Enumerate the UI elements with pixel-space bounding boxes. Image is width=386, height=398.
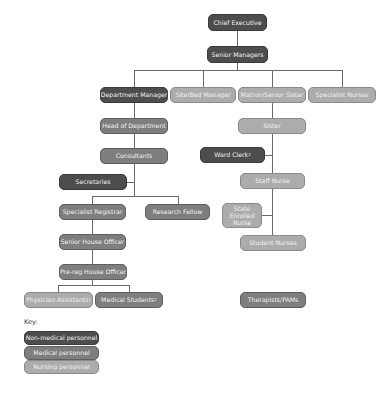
node-specialist-registrar: Specialist Registrar: [59, 204, 126, 220]
node-senior-house-officer: Senior House Officer: [59, 234, 126, 250]
connector: [92, 196, 93, 204]
node-consultants: Consultants: [100, 148, 168, 164]
node-chief-executive: Chief Executive: [208, 14, 267, 31]
medical-students-label: Medical Students: [101, 296, 154, 303]
node-sister: Sister: [238, 118, 306, 134]
node-senior-managers: Senior Managers: [207, 46, 268, 63]
connector: [237, 62, 238, 70]
connector: [134, 70, 342, 71]
connector: [237, 30, 238, 46]
ward-clerk-label: Ward Clerk: [214, 151, 248, 158]
node-department-manager: Department Manager: [100, 87, 168, 103]
connector: [58, 285, 129, 286]
connector: [342, 70, 343, 87]
node-staff-nurse: Staff Nurse: [240, 173, 305, 189]
connector: [134, 164, 135, 196]
key-item-nursing: Nursing personnel: [24, 360, 99, 374]
connector: [265, 155, 272, 156]
node-research-fellow: Research Fellow: [145, 204, 210, 220]
node-site-bed-manager: Site/Bed Manager: [170, 87, 236, 103]
key-item-non-medical: Non-medical personnel: [24, 331, 99, 345]
connector: [134, 70, 135, 87]
node-pre-reg-house-officer: Pre-reg House Officer: [59, 264, 127, 280]
connector: [58, 285, 59, 292]
node-student-nurses: Student Nurses: [240, 235, 306, 251]
node-secretaries: Secretaries: [59, 174, 127, 190]
connector: [129, 285, 130, 292]
node-ward-clerk: Ward Clerk2: [200, 147, 265, 163]
physician-assistants-label: Physician Assistants: [26, 296, 88, 303]
connector: [203, 70, 204, 87]
node-therapists-pams: Therapists/PAMs: [240, 292, 306, 308]
connector: [127, 182, 134, 183]
node-specialist-nurses: Specialist Nurses: [308, 87, 376, 103]
connector: [178, 196, 179, 204]
connector: [272, 103, 273, 173]
node-matron-senior-sister: Matron/Senior Sister: [238, 87, 306, 103]
connector: [272, 70, 273, 87]
key-label: Key:: [24, 318, 38, 326]
key-item-medical: Medical personnel: [24, 346, 99, 360]
node-medical-students: Medical Students1: [95, 292, 163, 308]
connector: [262, 215, 272, 216]
connector: [92, 196, 178, 197]
node-state-enrolled-nurse: State Enrolled Nurse: [222, 203, 262, 228]
connector: [272, 189, 273, 235]
node-physician-assistants: Physician Assistants1: [24, 292, 93, 308]
node-head-of-department: Head of Department: [100, 118, 168, 134]
